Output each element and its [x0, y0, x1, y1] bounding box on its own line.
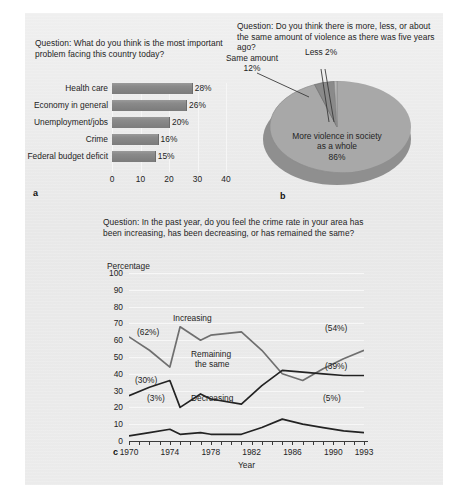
bar-fill — [112, 117, 170, 128]
series-annotation: Increasing — [173, 313, 233, 323]
x-tick-label: 1990 — [324, 447, 343, 457]
bar-value-label: 28% — [192, 82, 212, 94]
panel-letter-a: a — [33, 188, 38, 198]
series-value-label: (5%) — [323, 393, 341, 403]
x-tick — [252, 442, 253, 445]
x-tick — [231, 442, 232, 445]
x-tick — [313, 442, 314, 445]
bar-row: Health care28% — [112, 83, 192, 94]
bar-x-tick-label: 30 — [193, 174, 202, 184]
x-tick-label: 1993 — [355, 447, 374, 457]
y-tick-label: 10 — [103, 419, 123, 429]
x-axis-line — [129, 441, 368, 442]
y-tick-label: 90 — [103, 285, 123, 295]
bar-category-label: Federal budget deficit — [27, 150, 112, 162]
x-tick — [149, 442, 150, 445]
bar-row: Economy in general26% — [112, 100, 186, 111]
series-value-label: (54%) — [325, 323, 347, 333]
series-annotation: Decreasing — [191, 393, 255, 403]
x-tick — [180, 442, 181, 445]
x-tick — [139, 442, 140, 445]
bar-fill — [112, 151, 156, 162]
bar-value-label: 20% — [169, 116, 189, 128]
y-tick-label: 50 — [103, 352, 123, 362]
series-value-label: (62%) — [137, 327, 159, 337]
y-tick-label: 40 — [103, 369, 123, 379]
series-value-label: (3%) — [147, 393, 165, 403]
x-tick — [190, 442, 191, 445]
figure-panel: Question: What do you think is the most … — [25, 13, 443, 485]
bar-x-tick-label: 10 — [136, 174, 145, 184]
x-tick — [201, 442, 202, 445]
series-value-label: (30%) — [135, 375, 157, 385]
panel-c-question: Question: In the past year, do you feel … — [103, 217, 373, 238]
x-tick — [221, 442, 222, 445]
x-tick — [282, 442, 283, 445]
bar-chart-plot: Health care28%Economy in general26%Unemp… — [30, 83, 226, 173]
series-value-label: (39%) — [325, 361, 347, 371]
bar-value-label: 26% — [186, 99, 206, 111]
y-tick-label: 70 — [103, 318, 123, 328]
x-tick-label: 1982 — [242, 447, 261, 457]
y-tick-label: 20 — [103, 402, 123, 412]
panel-b-pie-chart: Question: Do you think there is more, le… — [225, 13, 443, 208]
x-axis-title: Year — [129, 460, 364, 470]
bar-fill — [112, 83, 193, 94]
line-series-decreasing — [129, 419, 364, 436]
bar-category-label: Unemployment/jobs — [34, 116, 112, 128]
bar-row: Crime16% — [112, 134, 158, 145]
bar-category-label: Crime — [86, 133, 112, 145]
x-tick — [129, 442, 130, 445]
x-tick — [303, 442, 304, 445]
x-tick — [323, 442, 324, 445]
x-tick — [292, 442, 293, 445]
x-tick — [344, 442, 345, 445]
panel-a-bar-chart: Question: What do you think is the most … — [25, 13, 230, 203]
bar-row: Federal budget deficit15% — [112, 151, 155, 162]
x-tick-label: 1986 — [283, 447, 302, 457]
x-tick-label: 1978 — [201, 447, 220, 457]
x-tick — [272, 442, 273, 445]
panel-letter-c: c — [113, 447, 118, 457]
y-tick-label: 30 — [103, 386, 123, 396]
y-tick-label: 60 — [103, 335, 123, 345]
x-tick — [364, 442, 365, 445]
x-tick — [354, 442, 355, 445]
x-tick — [262, 442, 263, 445]
bar-value-label: 15% — [155, 150, 175, 162]
bar-x-axis: 010203040 — [30, 174, 226, 188]
y-tick-label: 80 — [103, 302, 123, 312]
x-tick — [333, 442, 334, 445]
bar-x-tick-label: 20 — [164, 174, 173, 184]
pie-chart-plot: Same amount 12% Less 2% More violence in… — [263, 81, 411, 185]
bar-x-tick-label: 0 — [110, 174, 115, 184]
bar-value-label: 16% — [158, 133, 178, 145]
pie-label-more: More violence in society as a whole 86% — [277, 131, 397, 162]
x-tick — [170, 442, 171, 445]
bar-category-label: Health care — [65, 82, 112, 94]
bar-fill — [112, 100, 187, 111]
x-tick-label: 1974 — [161, 447, 180, 457]
x-tick-label: 1970 — [120, 447, 139, 457]
x-tick — [160, 442, 161, 445]
x-tick — [211, 442, 212, 445]
bar-fill — [112, 134, 159, 145]
y-tick-label: 100 — [103, 268, 123, 278]
series-annotation: Remaining — [191, 349, 251, 359]
pie-label-same-amount: Same amount 12% — [221, 53, 283, 74]
bar-row: Unemployment/jobs20% — [112, 117, 169, 128]
x-tick — [241, 442, 242, 445]
bar-gridline — [198, 83, 199, 172]
panel-a-question: Question: What do you think is the most … — [35, 38, 225, 59]
series-annotation: the same — [195, 359, 255, 369]
y-tick-label: 0 — [103, 436, 123, 446]
bar-category-label: Economy in general — [34, 99, 112, 111]
pie-label-less: Less 2% — [305, 47, 361, 57]
panel-letter-b: b — [280, 191, 286, 201]
panel-c-line-chart: Question: In the past year, do you feel … — [25, 209, 443, 485]
